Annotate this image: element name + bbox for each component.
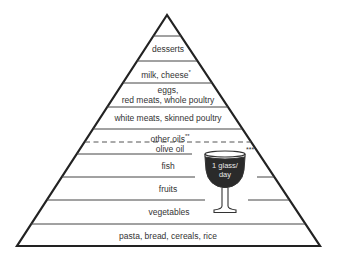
other-oils-text: other oils [150,134,185,144]
tier-label-vegetables: vegetables [148,207,189,217]
tier-label-desserts: desserts [152,44,184,54]
tier-label-milk-cheese: milk, cheese* [141,67,191,80]
other-oils-note: ** [185,133,190,139]
tier-label-white-meats: white meats, skinned poultry [114,113,221,123]
tier-label-other-oils: other oils** [150,131,189,144]
tier-label-eggs-red-meats: eggs, red meats, whole poultry [122,85,215,105]
milk-cheese-text: milk, cheese [141,70,188,80]
wine-note: *** [246,146,254,153]
food-pyramid-diagram [0,0,337,258]
tier-label-pasta-bread: pasta, bread, cereals, rice [119,231,217,241]
wine-line-2: day [212,171,238,180]
red-meats-line: red meats, whole poultry [122,95,215,105]
eggs-line: eggs, [122,85,215,95]
tier-label-fish: fish [161,161,174,171]
tier-label-olive-oil: olive oil [156,144,184,154]
wine-glass-label: 1 glass/ day [212,162,238,179]
tier-label-fruits: fruits [159,184,177,194]
milk-cheese-note: * [188,69,190,75]
